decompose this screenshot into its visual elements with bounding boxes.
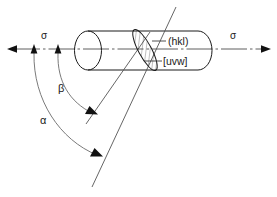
alpha-angle-label: α xyxy=(40,115,46,126)
uvw-direction-label: [uvw] xyxy=(163,56,188,67)
sigma-right-label: σ xyxy=(230,31,236,41)
beta-angle-label: β xyxy=(58,83,64,94)
hkl-plane-label: (hkl) xyxy=(168,36,188,47)
sigma-right-arrowhead xyxy=(261,45,271,53)
cylinder-left-face xyxy=(75,31,102,70)
direction-lines-group xyxy=(86,7,176,187)
beta-angle-group xyxy=(55,44,98,115)
alpha-arc-arrowhead xyxy=(90,148,103,157)
grain-ellipse-group xyxy=(128,27,161,74)
alpha-arc xyxy=(34,53,97,155)
figure-canvas: σ σ α β (hkl) [uvw] xyxy=(0,0,277,197)
cylinder-right-cap xyxy=(198,31,212,70)
sigma-left-arrowhead xyxy=(7,45,17,53)
sigma-left-label: σ xyxy=(41,31,47,41)
alpha-angle-group xyxy=(31,44,103,157)
grain-slip-plane-ellipse xyxy=(128,27,161,74)
